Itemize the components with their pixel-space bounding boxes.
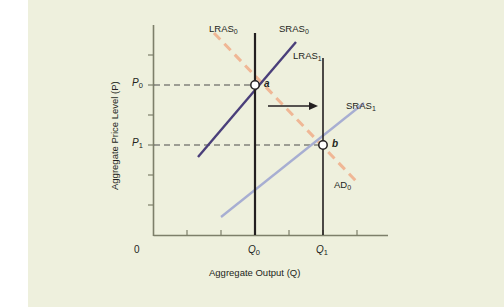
curve-label-lras1: LRAS1 — [293, 51, 322, 61]
point-label-a: a — [264, 79, 270, 89]
curve-label-lras0: LRAS0 — [209, 24, 238, 34]
shift-arrow-icon — [268, 102, 318, 110]
curve-sras1 — [221, 103, 364, 217]
figure-screenshot: LRAS0 SRAS0 LRAS1 SRAS1 AD0 a b P0 P1 Q0… — [0, 0, 504, 307]
curve-label-sras0: SRAS0 — [279, 24, 309, 34]
chart-canvas — [28, 0, 504, 307]
y-axis-title: Aggregate Price Level (P) — [110, 81, 120, 190]
origin-label: 0 — [134, 245, 140, 255]
y-tick-label-p0: P0 — [132, 78, 143, 88]
x-tick-label-q1: Q1 — [316, 245, 328, 255]
point-label-b: b — [332, 139, 338, 149]
equilibrium-point-b — [319, 141, 327, 149]
y-tick-label-p1: P1 — [132, 138, 143, 148]
equilibrium-point-a — [251, 81, 259, 89]
x-tick-label-q0: Q0 — [248, 245, 260, 255]
curve-label-sras1: SRAS1 — [346, 101, 376, 111]
curve-sras0 — [198, 42, 296, 157]
curve-label-ad0: AD0 — [334, 180, 351, 190]
figure-panel: LRAS0 SRAS0 LRAS1 SRAS1 AD0 a b P0 P1 Q0… — [28, 0, 504, 307]
x-axis-title: Aggregate Output (Q) — [209, 268, 300, 278]
